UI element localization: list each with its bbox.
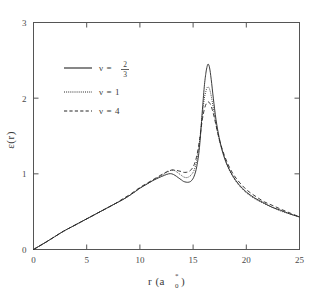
x-axis-title-superscript: * <box>175 272 179 280</box>
x-axis-title-main: r (a <box>148 275 165 288</box>
x-tick-label: 10 <box>135 255 145 265</box>
chart-figure: ε(r) r (a 0 * ) ν = 2 3 ν = 1 ν <box>0 0 320 293</box>
y-tick-label: 1 <box>22 169 27 179</box>
x-tick-label: 15 <box>189 255 199 265</box>
x-axis-title-close: ) <box>181 275 185 288</box>
legend-label-nu-4: ν = 4 <box>99 106 120 116</box>
y-tick-label: 2 <box>22 94 27 104</box>
chart-svg: ε(r) r (a 0 * ) ν = 2 3 ν = 1 ν <box>0 0 320 293</box>
x-tick-label: 0 <box>31 255 36 265</box>
x-tick-label: 20 <box>242 255 252 265</box>
x-tick-label: 25 <box>295 255 305 265</box>
y-axis-title: ε(r) <box>4 131 17 149</box>
legend-fraction-denominator: 3 <box>123 70 127 79</box>
x-tick-label: 5 <box>84 255 89 265</box>
legend-label-nu-1: ν = 1 <box>99 87 120 97</box>
legend-fraction-numerator: 2 <box>123 60 127 69</box>
x-axis-title-subscript: 0 <box>175 282 179 290</box>
y-tick-label: 0 <box>22 245 27 255</box>
legend-label-nu-2-3: ν = <box>99 63 112 73</box>
y-tick-label: 3 <box>22 18 27 28</box>
